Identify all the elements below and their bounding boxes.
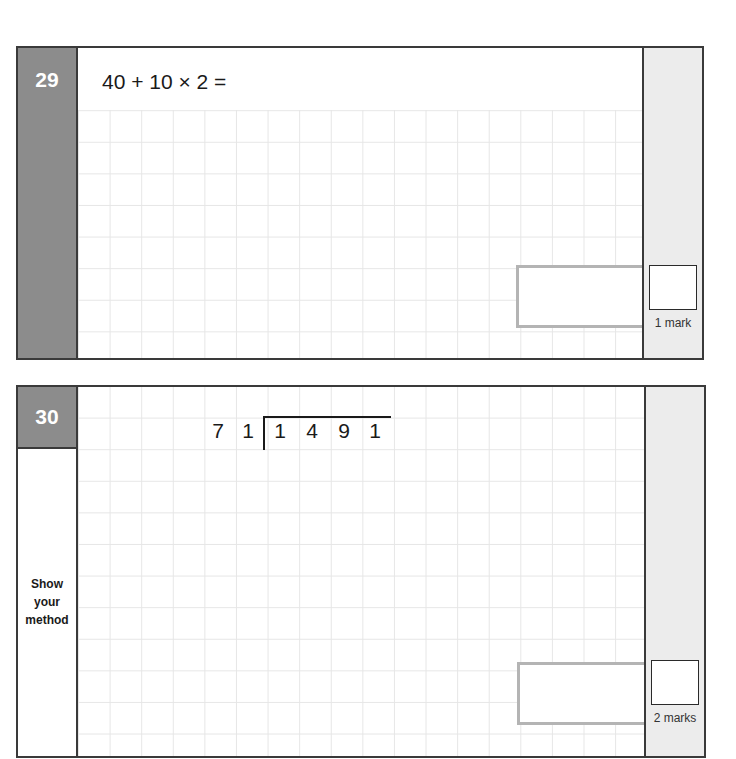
dividend-digit: 4 [302, 419, 322, 443]
marks-label: 2 marks [646, 711, 704, 725]
divisor-digit: 7 [208, 419, 228, 443]
show-your-method-label: Show your method [18, 575, 76, 629]
marks-column: 1 mark [642, 48, 702, 358]
method-label-line: Show [18, 575, 76, 593]
question-29: 29 40 + 10 × 2 = 1 mark [16, 46, 704, 360]
dividend-digit: 1 [365, 419, 385, 443]
long-division: 7 1 1 4 9 1 [208, 416, 408, 452]
divisor-digit: 1 [238, 419, 258, 443]
method-label-line: method [18, 611, 76, 629]
question-number: 29 [18, 48, 76, 112]
marks-label: 1 mark [644, 316, 702, 330]
question-number-column: 30 Show your method [18, 387, 78, 756]
question-number-column: 29 [18, 48, 78, 358]
marks-column: 2 marks [644, 387, 704, 756]
mark-box [649, 265, 697, 310]
question-30: 30 Show your method 7 1 1 4 9 1 2 marks [16, 385, 706, 758]
question-prompt: 40 + 10 × 2 = [102, 70, 226, 94]
mark-box [651, 660, 699, 705]
working-grid[interactable]: 7 1 1 4 9 1 [78, 387, 644, 756]
dividend-digit: 1 [270, 419, 290, 443]
dividend-digit: 9 [334, 419, 354, 443]
working-grid[interactable]: 40 + 10 × 2 = [78, 48, 642, 358]
question-number: 30 [18, 387, 76, 449]
method-label-line: your [18, 593, 76, 611]
